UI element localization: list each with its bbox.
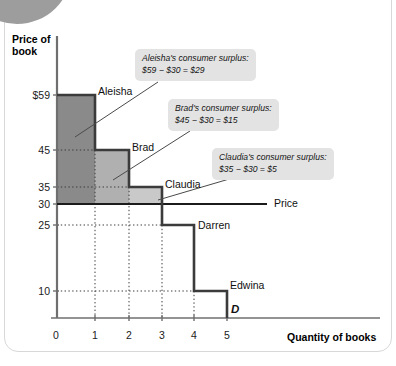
y-axis-title: Price of book — [12, 33, 51, 57]
y-axis-title-line2: book — [12, 45, 51, 57]
x-tick-label-2: 2 — [121, 329, 137, 341]
claudia-callout-line1: Claudia's consumer surplus: — [219, 152, 327, 164]
x-axis-title: Quantity of books — [287, 331, 376, 343]
claudia-surplus-area — [129, 187, 162, 204]
aleisha-callout-line1: Aleisha's consumer surplus: — [142, 53, 249, 65]
y-tick-label-45: 45 — [8, 144, 50, 156]
x-tick-label-1: 1 — [87, 329, 103, 341]
consumer-label-darren: Darren — [198, 219, 230, 231]
y-tick-label-25: 25 — [8, 219, 50, 231]
consumer-label-edwina: Edwina — [230, 279, 264, 291]
consumer-label-claudia: Claudia — [165, 178, 201, 190]
y-tick-label-30: 30 — [8, 198, 50, 210]
x-tick-label-4: 4 — [186, 329, 202, 341]
x-tick-label-3: 3 — [154, 329, 170, 341]
aleisha-callout-line2: $59 − $30 = $29 — [142, 65, 249, 77]
brad-callout-line2: $45 − $30 = $15 — [175, 115, 272, 127]
y-tick-label-10: 10 — [8, 285, 50, 297]
claudia-callout-line2: $35 − $30 = $5 — [219, 164, 327, 176]
aleisha-callout: Aleisha's consumer surplus: $59 − $30 = … — [135, 49, 256, 81]
consumer-label-brad: Brad — [132, 141, 154, 153]
x-tick-label-5: 5 — [219, 329, 235, 341]
brad-surplus-area — [95, 150, 129, 204]
brad-callout-line1: Brad's consumer surplus: — [175, 103, 272, 115]
consumer-label-aleisha: Aleisha — [98, 85, 132, 97]
claudia-callout: Claudia's consumer surplus: $35 − $30 = … — [212, 148, 334, 180]
x-tick-label-0: 0 — [48, 329, 64, 341]
brad-callout: Brad's consumer surplus: $45 − $30 = $15 — [168, 99, 279, 131]
figure-page: Price of book Quantity of books $59 45 3… — [0, 0, 396, 366]
y-tick-label-59: $59 — [8, 89, 50, 101]
price-line-label: Price — [274, 197, 298, 209]
y-axis-title-line1: Price of — [12, 33, 51, 45]
y-tick-label-35: 35 — [8, 181, 50, 193]
demand-curve-label: D — [231, 303, 239, 315]
